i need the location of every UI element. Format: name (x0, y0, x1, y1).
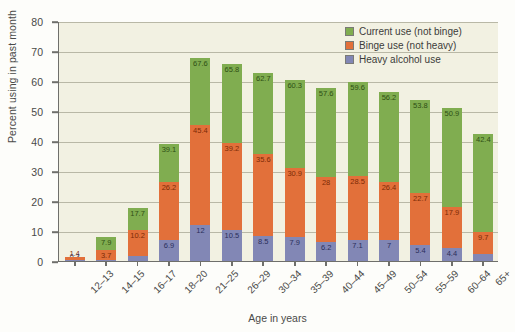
y-tick-mark (52, 21, 58, 23)
bar-group[interactable]: 60.330.97.9 (285, 22, 305, 261)
y-tick-label: 40 (31, 136, 43, 148)
bar-segment-binge-use: 3.7 (96, 250, 116, 260)
bar-segment-heavy-use: 7.1 (348, 240, 368, 261)
x-tick-label: 40–44 (339, 268, 366, 295)
y-tick-mark (52, 141, 58, 143)
bar-group[interactable] (65, 22, 85, 261)
bar-value-label: 53.8 (410, 101, 430, 110)
bar-value-label: 7.9 (285, 238, 305, 247)
bar-segment-current-use: 59.6 (348, 82, 368, 175)
bar-segment-current-use: 53.8 (410, 100, 430, 193)
bar-value-label: 28 (316, 178, 336, 187)
bar-value-label: 26.2 (159, 183, 179, 192)
bar-segment-binge-use: 26.4 (379, 182, 399, 240)
legend-item[interactable]: Current use (not binge) (345, 26, 462, 37)
bar-segment-heavy-use: 12 (190, 225, 210, 261)
bar-group[interactable]: 57.6286.2 (316, 22, 336, 261)
x-tick-mark (200, 261, 202, 266)
bar-value-label: 42.4 (473, 135, 493, 144)
x-tick-label: 26–29 (245, 268, 272, 295)
bar-value-label: 67.6 (190, 59, 210, 68)
bar-value-label: 4.4 (442, 249, 462, 258)
bar-segment-current-use: 17.7 (128, 208, 148, 231)
y-tick-label: 10 (31, 226, 43, 238)
bar-value-label: 28.5 (348, 177, 368, 186)
x-tick-mark (168, 261, 170, 266)
y-tick-mark (52, 261, 58, 263)
bar-value-label: 50.9 (442, 109, 462, 118)
y-tick-label: 20 (31, 196, 43, 208)
x-tick-mark (74, 261, 76, 266)
bar-segment-heavy-use: 8.5 (253, 236, 273, 262)
y-tick-mark (52, 201, 58, 203)
y-tick-label: 30 (31, 166, 43, 178)
bar-segment-heavy-use: 4.4 (442, 248, 462, 261)
bar-value-label: 35.6 (253, 155, 273, 164)
x-tick-mark (231, 261, 233, 266)
bar-segment-current-use: 39.1 (159, 144, 179, 183)
bar-value-label: 5.4 (410, 246, 430, 255)
chart-legend: Current use (not binge)Binge use (not he… (345, 26, 462, 68)
bar-value-label: 60.3 (285, 81, 305, 90)
x-tick-label: 21–25 (214, 268, 241, 295)
bar-value-label: 65.8 (222, 65, 242, 74)
bar-value-label: 8.5 (253, 237, 273, 246)
y-tick-mark (52, 51, 58, 53)
bar-group[interactable]: 65.839.210.5 (222, 22, 242, 261)
bar-value-label: 7 (379, 241, 399, 250)
y-tick-mark (52, 111, 58, 113)
x-tick-mark (137, 261, 139, 266)
x-tick-label: 14–15 (119, 268, 146, 295)
x-tick-mark (325, 261, 327, 266)
bar-segment-binge-use: 35.6 (253, 154, 273, 235)
x-tick-label: 50–54 (402, 268, 429, 295)
bar-segment-current-use: 62.7 (253, 73, 273, 154)
bar-value-label: 17.9 (442, 208, 462, 217)
y-tick-label: 80 (31, 16, 43, 28)
x-tick-label: 30–34 (276, 268, 303, 295)
legend-item[interactable]: Binge use (not heavy) (345, 40, 462, 51)
bar-segment-current-use: 50.9 (442, 108, 462, 207)
bar-group[interactable]: 42.49.7 (473, 22, 493, 261)
bar-segment-heavy-use: 5.4 (410, 245, 430, 261)
bar-value-label: 56.2 (379, 93, 399, 102)
bar-value-label: 6.2 (316, 243, 336, 252)
bar-value-label: 30.9 (285, 169, 305, 178)
x-tick-mark (451, 261, 453, 266)
bar-group[interactable]: 39.126.26.9 (159, 22, 179, 261)
x-tick-label: 12–13 (88, 268, 115, 295)
bar-segment-heavy-use: 6.9 (159, 240, 179, 261)
x-tick-label: 16–17 (151, 268, 178, 295)
bar-segment-heavy-use: 7.9 (285, 237, 305, 261)
y-tick-label: 0 (37, 256, 43, 268)
x-tick-mark (357, 261, 359, 266)
x-tick-mark (262, 261, 264, 266)
x-tick-label: 60–64 (465, 268, 492, 295)
bar-segment-binge-use: 28.5 (348, 176, 368, 240)
bar-segment-heavy-use: 7 (379, 240, 399, 261)
legend-swatch-icon (345, 41, 354, 50)
bar-value-label: 7.9 (96, 238, 116, 247)
x-tick-mark (420, 261, 422, 266)
bar-group[interactable]: 62.735.68.5 (253, 22, 273, 261)
bar-segment-binge-use: 45.4 (190, 125, 210, 225)
y-tick-label: 50 (31, 106, 43, 118)
bar-segment-heavy-use: 10.5 (222, 230, 242, 262)
bar-segment-current-use: 57.6 (316, 88, 336, 177)
y-tick-mark (52, 171, 58, 173)
bar-value-label: 39.2 (222, 144, 242, 153)
x-tick-label: 65+ (493, 268, 513, 288)
bar-segment-current-use: 65.8 (222, 64, 242, 144)
legend-item[interactable]: Heavy alcohol use (345, 54, 462, 65)
bar-value-label: 9.7 (473, 233, 493, 242)
legend-label: Binge use (not heavy) (359, 40, 456, 51)
bar-segment-current-use: 56.2 (379, 92, 399, 181)
y-tick-label: 70 (31, 46, 43, 58)
legend-label: Current use (not binge) (359, 26, 462, 37)
bar-segment-current-use: 60.3 (285, 80, 305, 168)
bar-group[interactable]: 67.645.412 (190, 22, 210, 261)
bar-group[interactable]: 7.93.7 (96, 22, 116, 261)
bar-group[interactable]: 17.710.2 (128, 22, 148, 261)
bar-value-label: 7.1 (348, 241, 368, 250)
x-tick-label: 45–49 (371, 268, 398, 295)
